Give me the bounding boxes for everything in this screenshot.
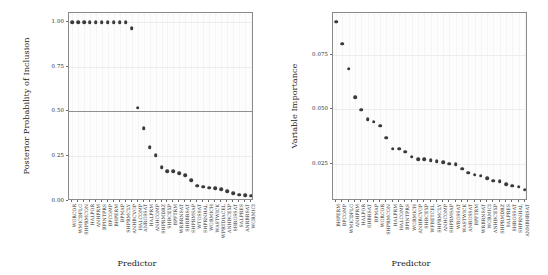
x-axis-tick-label: SHPRMCON <box>85 204 90 235</box>
gridline-vertical <box>209 13 210 199</box>
data-point <box>498 180 502 184</box>
x-axis-tick-mark <box>107 200 108 202</box>
gridline-vertical <box>245 13 246 199</box>
data-point <box>460 167 464 171</box>
data-point <box>510 184 514 188</box>
data-point <box>485 176 489 180</box>
data-point <box>160 165 164 169</box>
y-axis-title-right: Variable Importance <box>289 12 299 200</box>
x-axis-tick-mark <box>131 200 132 202</box>
gridline-vertical <box>96 13 97 199</box>
data-point <box>341 42 345 46</box>
x-axis-tick-mark <box>455 200 456 202</box>
x-axis-tick-mark <box>208 200 209 202</box>
x-axis-tick-mark <box>524 200 525 202</box>
gridline-horizontal <box>333 55 526 56</box>
gridline-vertical <box>126 13 127 199</box>
x-axis-tick-label: HALPRM <box>394 204 399 226</box>
data-point <box>184 173 188 177</box>
data-point <box>70 20 74 24</box>
x-axis-tick-mark <box>83 200 84 202</box>
x-axis-tick-label: ANHPRM <box>356 204 361 227</box>
x-axis-title-right: Predictor <box>274 258 548 268</box>
x-axis-tick-label: ANHPRM <box>97 204 102 227</box>
x-axis-tick-mark <box>423 200 424 202</box>
y-axis-tick-label: 0.25 <box>52 152 64 158</box>
data-point <box>410 155 414 159</box>
data-point <box>100 20 104 24</box>
x-axis-tick-label: HALCOMP <box>400 204 405 230</box>
gridline-vertical <box>150 13 151 199</box>
x-axis-tick-mark <box>125 200 126 202</box>
y-axis-tick-mark <box>66 66 68 67</box>
data-point <box>154 154 158 158</box>
data-point <box>231 191 235 195</box>
x-axis-tick-mark <box>119 200 120 202</box>
data-point <box>334 20 338 24</box>
x-axis-tick-mark <box>172 200 173 202</box>
gridline-horizontal <box>69 156 252 157</box>
data-point <box>225 189 229 193</box>
gridline-vertical <box>487 13 488 199</box>
data-point <box>201 185 205 189</box>
gridline-vertical <box>449 13 450 199</box>
gridline-vertical <box>506 13 507 199</box>
x-axis-tick-mark <box>71 200 72 202</box>
gridline-vertical <box>405 13 406 199</box>
x-axis-tick-label: SHBRSAT <box>368 204 373 228</box>
gridline-vertical <box>519 13 520 199</box>
x-axis-tick-mark <box>244 200 245 202</box>
y-axis-tick-mark <box>66 110 68 111</box>
data-point <box>166 170 170 174</box>
gridline-vertical <box>355 13 356 199</box>
plot-area-right <box>332 12 527 200</box>
data-point <box>219 188 223 192</box>
gridline-vertical <box>72 13 73 199</box>
x-axis-tick-mark <box>238 200 239 202</box>
x-axis-tick-mark <box>411 200 412 202</box>
data-point <box>429 159 433 163</box>
x-axis-tick-mark <box>155 200 156 202</box>
x-axis-tick-label: ANHBHRSAT <box>526 204 531 237</box>
data-point <box>492 179 496 183</box>
data-point <box>378 124 382 128</box>
gridline-vertical <box>114 13 115 199</box>
x-axis-tick-mark <box>196 200 197 202</box>
data-point <box>82 20 86 24</box>
x-axis-tick-mark <box>143 200 144 202</box>
x-axis-tick-label: SHPRMCON <box>387 204 392 235</box>
gridline-vertical <box>475 13 476 199</box>
gridline-vertical <box>78 13 79 199</box>
data-point <box>136 106 140 110</box>
x-axis-tick-mark <box>77 200 78 202</box>
x-axis-tick-label: BPCOMP <box>109 204 114 226</box>
x-axis-tick-label: SHPRMCLY <box>438 204 443 233</box>
gridline-vertical <box>399 13 400 199</box>
x-axis-tick-label: SHPRMSAP <box>450 204 455 233</box>
gridline-vertical <box>412 13 413 199</box>
data-point <box>130 26 134 30</box>
data-point <box>190 179 194 183</box>
data-point <box>213 187 217 191</box>
data-point <box>479 174 483 178</box>
gridline-vertical <box>227 13 228 199</box>
x-axis-tick-label: BPFTRM <box>475 204 480 226</box>
data-point <box>441 160 445 164</box>
data-point <box>243 193 247 197</box>
x-axis-tick-mark <box>89 200 90 202</box>
x-axis-tick-mark <box>348 200 349 202</box>
x-axis-tick-mark <box>214 200 215 202</box>
y-axis-tick-label: 0.00 <box>52 197 64 203</box>
y-axis-tick-label: 1.00 <box>52 18 64 24</box>
gridline-horizontal <box>69 67 252 68</box>
gridline-vertical <box>393 13 394 199</box>
x-axis-tick-label: SHPRMDRZ <box>501 204 506 234</box>
x-axis-tick-mark <box>137 200 138 202</box>
x-axis-tick-label: WMICDFLG <box>350 204 355 233</box>
x-axis-tick-label: BPCOMP <box>343 204 348 226</box>
data-point <box>435 159 439 163</box>
x-axis-tick-label: WASTWICK <box>463 204 468 232</box>
x-axis-tick-mark <box>232 200 233 202</box>
gridline-vertical <box>500 13 501 199</box>
y-axis-tick-label: 0.025 <box>312 160 328 166</box>
